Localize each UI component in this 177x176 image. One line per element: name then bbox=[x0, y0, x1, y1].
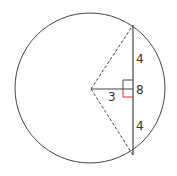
label-chord-length: 8 bbox=[136, 83, 144, 97]
right-angle-marker-top bbox=[123, 80, 133, 89]
right-angle-marker-bottom bbox=[123, 89, 133, 97]
radius-upper-dashed bbox=[91, 25, 133, 89]
circle-diagram: 4 8 4 3 bbox=[0, 0, 177, 176]
label-lower-half: 4 bbox=[136, 119, 144, 133]
label-upper-half: 4 bbox=[136, 52, 144, 66]
label-distance: 3 bbox=[108, 90, 116, 104]
